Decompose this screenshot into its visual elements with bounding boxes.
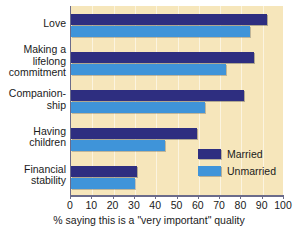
category-axis-labels: LoveMaking alifelongcommitmentCompanion-… <box>0 6 66 195</box>
category-label-line: Love <box>0 18 66 30</box>
bar-unmarried <box>71 178 135 189</box>
bar-unmarried <box>71 102 205 113</box>
bar-unmarried <box>71 26 250 37</box>
category-label-line: stability <box>0 175 66 187</box>
bar-row <box>71 102 283 113</box>
legend-item: Unmarried <box>198 165 276 177</box>
legend-label: Unmarried <box>227 165 276 177</box>
gridline <box>284 6 285 195</box>
bar-row <box>71 52 283 63</box>
category-label-line: ship <box>0 100 66 112</box>
bar-married <box>71 52 254 63</box>
bar-married <box>71 128 197 139</box>
bar-row <box>71 128 283 139</box>
category-label: Making alifelongcommitment <box>0 44 66 79</box>
bar-row <box>71 26 283 37</box>
x-axis-title: % saying this is a "very important" qual… <box>0 214 298 226</box>
bar-group <box>71 52 283 75</box>
legend-swatch <box>198 166 221 176</box>
category-label-line: Companion- <box>0 88 66 100</box>
bar-married <box>71 166 137 177</box>
category-label-line: children <box>0 137 66 149</box>
category-label: Havingchildren <box>0 126 66 149</box>
legend-label: Married <box>227 148 263 160</box>
x-tick-label: 100 <box>271 199 295 211</box>
category-label-line: commitment <box>0 67 66 79</box>
bar-married <box>71 90 244 101</box>
bar-row <box>71 64 283 75</box>
legend: MarriedUnmarried <box>198 148 276 182</box>
bar-group <box>71 90 283 113</box>
bar-chart: LoveMaking alifelongcommitmentCompanion-… <box>0 0 298 231</box>
bar-row <box>71 90 283 101</box>
bar-married <box>71 14 267 25</box>
category-label: Companion-ship <box>0 88 66 111</box>
category-label: Love <box>0 18 66 30</box>
bar-row <box>71 14 283 25</box>
legend-swatch <box>198 149 221 159</box>
category-label: Financialstability <box>0 164 66 187</box>
bar-group <box>71 14 283 37</box>
bar-unmarried <box>71 64 226 75</box>
bar-unmarried <box>71 140 165 151</box>
legend-item: Married <box>198 148 276 160</box>
